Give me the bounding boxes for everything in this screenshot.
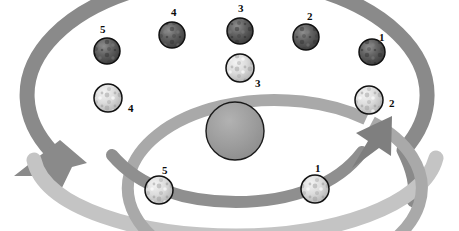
inner-moon xyxy=(94,84,122,112)
inner-moon xyxy=(301,175,329,203)
inner-moon xyxy=(355,86,383,114)
outer-moon xyxy=(293,24,319,50)
outer-moon-label: 5 xyxy=(100,24,106,35)
inner-moon-label: 3 xyxy=(255,78,261,89)
outer-moon-label: 1 xyxy=(379,32,385,43)
inner-moon-label: 4 xyxy=(128,103,134,114)
center-body xyxy=(206,102,264,160)
diagram-canvas xyxy=(0,0,459,231)
inner-moon xyxy=(226,54,254,82)
orbital-phase-diagram: 5432143251 xyxy=(0,0,459,231)
inner-moon-label: 1 xyxy=(315,163,321,174)
inner-moon-label: 2 xyxy=(389,98,395,109)
outer-moon xyxy=(94,38,120,64)
outer-moon xyxy=(227,18,253,44)
inner-moon xyxy=(145,176,173,204)
inner-moon-label: 5 xyxy=(162,165,168,176)
outer-moon-label: 3 xyxy=(238,3,244,14)
outer-moon-label: 4 xyxy=(171,7,177,18)
outer-moon xyxy=(159,22,185,48)
outer-moon-label: 2 xyxy=(307,11,313,22)
